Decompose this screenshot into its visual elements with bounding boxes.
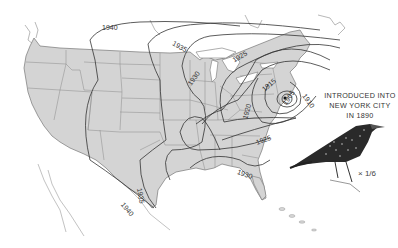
introduction-caption: INTRODUCED INTO NEW YORK CITY IN 1890: [322, 91, 398, 121]
starling-illustration: [290, 124, 385, 192]
caption-line-3: IN 1890: [322, 111, 398, 121]
label-1935-north: 1935: [171, 40, 188, 54]
label-1940-north: 1940: [102, 24, 118, 31]
label-1940-south: 1940: [120, 201, 135, 218]
florida: [252, 176, 266, 200]
caption-line-2: NEW YORK CITY: [322, 101, 398, 111]
label-1935-south: 1935: [136, 187, 146, 204]
caption-line-1: INTRODUCED INTO: [322, 91, 398, 101]
islands: [279, 208, 317, 232]
usa-land: [24, 30, 310, 208]
label-1910: 1910: [301, 92, 316, 109]
scale-label: × 1/6: [358, 169, 376, 178]
